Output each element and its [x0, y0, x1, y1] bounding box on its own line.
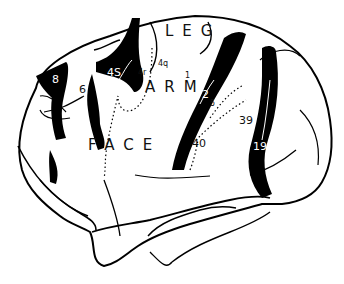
label-area-8: 8: [52, 74, 59, 85]
label-area-6: 6: [79, 84, 86, 95]
label-area-40: 40: [192, 138, 206, 149]
label-area-5: 5: [210, 100, 215, 108]
label-area-4r: 4r: [138, 69, 146, 77]
brain-diagram: [0, 0, 344, 284]
label-area-19: 19: [253, 141, 267, 152]
label-area-4s: 4S: [107, 67, 121, 78]
label-area-39: 39: [239, 115, 253, 126]
label-face: FACE: [88, 138, 161, 153]
label-area-1: 1: [185, 72, 190, 80]
label-leg: LEG: [165, 24, 221, 39]
label-arm: ARM: [145, 80, 206, 95]
hemisphere-outline: [19, 16, 331, 266]
label-area-4q: 4q: [158, 60, 168, 68]
label-area-2: 2: [202, 89, 209, 100]
